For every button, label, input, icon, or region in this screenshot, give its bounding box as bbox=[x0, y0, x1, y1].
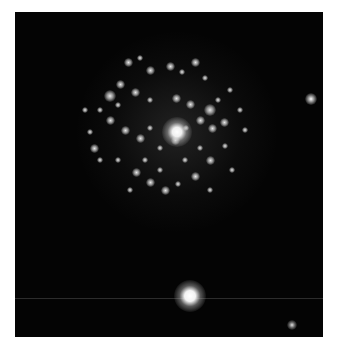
galaxy-knot bbox=[82, 107, 88, 113]
galaxy-knot bbox=[242, 127, 248, 133]
galaxy-knot bbox=[157, 145, 163, 151]
galaxy-knot bbox=[121, 126, 130, 135]
sensor-streak bbox=[15, 298, 323, 299]
galaxy-knot bbox=[132, 168, 141, 177]
star-right bbox=[305, 93, 317, 105]
galaxy-knot bbox=[115, 102, 121, 108]
galaxy-knot bbox=[172, 94, 181, 103]
galaxy-knot bbox=[215, 97, 221, 103]
galaxy-knot bbox=[208, 124, 217, 133]
bright-star-bottom bbox=[174, 280, 206, 312]
galaxy-knot bbox=[142, 157, 148, 163]
galaxy-knot bbox=[204, 104, 216, 116]
galaxy-knot bbox=[115, 157, 121, 163]
galaxy-knot bbox=[202, 75, 208, 81]
galaxy-knot bbox=[166, 62, 175, 71]
galaxy-knot bbox=[87, 129, 93, 135]
galaxy-knot bbox=[186, 100, 195, 109]
galaxy-knot bbox=[106, 116, 115, 125]
galaxy-knot bbox=[222, 143, 228, 149]
galaxy-knot bbox=[90, 144, 99, 153]
galaxy-knot bbox=[147, 97, 153, 103]
galaxy-knot bbox=[127, 187, 133, 193]
galaxy-knot bbox=[227, 87, 233, 93]
galaxy-knot bbox=[179, 69, 185, 75]
galaxy-knot bbox=[97, 157, 103, 163]
astronomical-image bbox=[15, 12, 323, 337]
galaxy-knot bbox=[124, 58, 133, 67]
galaxy-knot bbox=[175, 181, 181, 187]
galaxy-knot bbox=[207, 187, 213, 193]
galaxy-nucleus bbox=[162, 117, 192, 147]
galaxy-knot bbox=[206, 156, 215, 165]
galaxy-knot bbox=[220, 118, 229, 127]
galaxy-knot bbox=[136, 134, 145, 143]
galaxy-knot bbox=[131, 88, 140, 97]
galaxy-knot bbox=[182, 157, 188, 163]
galaxy-knot bbox=[191, 58, 200, 67]
galaxy-knot bbox=[197, 145, 203, 151]
galaxy-knot bbox=[104, 90, 116, 102]
galaxy-knot bbox=[229, 167, 235, 173]
star-bottom-right bbox=[287, 320, 297, 330]
galaxy-knot bbox=[146, 66, 155, 75]
galaxy-knot bbox=[191, 172, 200, 181]
galaxy-knot bbox=[147, 125, 153, 131]
galaxy-knot bbox=[116, 80, 125, 89]
galaxy-knot bbox=[196, 116, 205, 125]
galaxy-knot bbox=[161, 186, 170, 195]
galaxy-knot bbox=[137, 55, 143, 61]
galaxy-knot bbox=[146, 178, 155, 187]
galaxy-knot bbox=[237, 107, 243, 113]
galaxy-knot bbox=[97, 107, 103, 113]
galaxy-knot bbox=[157, 167, 163, 173]
